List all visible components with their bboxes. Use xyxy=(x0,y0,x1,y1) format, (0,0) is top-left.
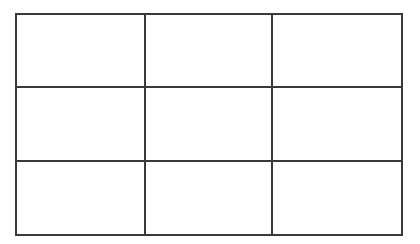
grid-cell-r3-c2 xyxy=(146,162,271,234)
grid-cell-r3-c1 xyxy=(17,162,144,234)
grid-border-bottom xyxy=(15,234,403,236)
grid-cell-r3-c3 xyxy=(273,162,401,234)
grid-cell-r2-c1 xyxy=(17,88,144,160)
grid-cell-r1-c1 xyxy=(17,15,144,86)
empty-3x3-grid xyxy=(15,13,403,236)
grid-cell-r2-c3 xyxy=(273,88,401,160)
grid-cell-r1-c3 xyxy=(273,15,401,86)
grid-cell-r1-c2 xyxy=(146,15,271,86)
grid-border-right xyxy=(401,13,403,236)
grid-cell-r2-c2 xyxy=(146,88,271,160)
